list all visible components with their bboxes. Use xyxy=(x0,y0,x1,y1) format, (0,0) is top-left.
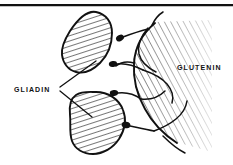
gliadin-body-upper xyxy=(62,12,112,73)
connector-node-1 xyxy=(115,33,125,42)
gliadin-body-lower xyxy=(70,92,125,154)
gliadin-body-upper-hatch xyxy=(62,12,112,73)
glutenin-mass-fill xyxy=(133,20,212,152)
connector-link-4 xyxy=(130,126,154,131)
diagram-canvas: GLIADIN GLUTENIN xyxy=(0,0,233,165)
glutenin-label: GLUTENIN xyxy=(177,64,222,71)
glutenin-mass xyxy=(133,20,212,152)
figure-root: GLIADIN GLUTENIN xyxy=(0,0,233,165)
gliadin-label: GLIADIN xyxy=(14,86,50,93)
gliadin-body-lower-hatch xyxy=(70,92,125,154)
